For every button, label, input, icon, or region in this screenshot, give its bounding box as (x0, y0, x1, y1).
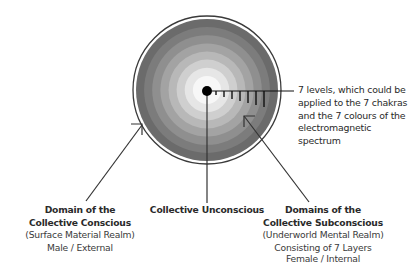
annotation-line: and the 7 colours of the (298, 110, 407, 123)
levels-annotation: 7 levels, which could be applied to the … (298, 84, 407, 148)
annotation-line: electromagnetic (298, 122, 407, 135)
center-dot (202, 86, 212, 96)
label-title: Collective Conscious (10, 217, 150, 230)
label-subtitle: Male / External (10, 242, 150, 255)
label-collective-conscious: Domain of the Collective Conscious (Surf… (10, 204, 150, 254)
label-title: Collective Subconscious (248, 217, 398, 230)
annotation-line: applied to the 7 chakras (298, 97, 407, 110)
conscious-arrow (86, 124, 142, 201)
label-title: Domain of the (10, 204, 150, 217)
label-collective-subconscious: Domains of the Collective Subconscious (… (248, 204, 398, 264)
label-title: Domains of the (248, 204, 398, 217)
annotation-line: 7 levels, which could be (298, 84, 407, 97)
annotation-line: spectrum (298, 135, 407, 148)
label-subtitle: (Surface Material Realm) (10, 229, 150, 242)
label-subtitle: (Underworld Mental Realm) (248, 229, 398, 242)
label-subtitle: Consisting of 7 Layers (248, 242, 398, 253)
label-subtitle: Female / Internal (248, 253, 398, 264)
